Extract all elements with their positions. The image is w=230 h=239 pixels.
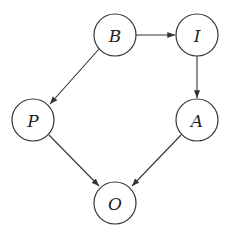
edge-a-to-o	[132, 135, 181, 186]
edge-b-to-p	[50, 49, 99, 104]
node-b-label: B	[108, 26, 122, 46]
node-b: B	[94, 14, 136, 56]
node-o-label: O	[108, 194, 122, 214]
edge-p-to-o	[49, 135, 99, 186]
node-i: I	[176, 14, 218, 56]
node-p: P	[12, 99, 54, 141]
node-a: A	[176, 99, 218, 141]
node-i-label: I	[193, 26, 201, 46]
node-o: O	[94, 182, 136, 224]
node-p-label: P	[26, 111, 39, 131]
graph-canvas: B I P A O	[0, 0, 230, 239]
node-a-label: A	[189, 111, 203, 131]
